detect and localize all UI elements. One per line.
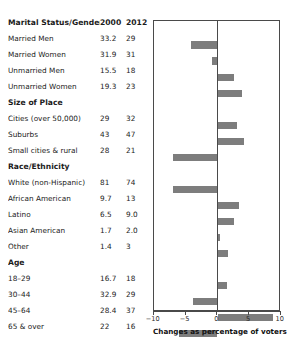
- row-value-2000: 43: [100, 130, 126, 139]
- axis-tick: [185, 311, 186, 315]
- bar: [173, 154, 217, 161]
- axis-tick-label: 0: [214, 315, 218, 323]
- bar-row: [154, 53, 279, 69]
- column-header: Marital Status/Gender20002012: [8, 14, 150, 30]
- row-value-2000: 1.4: [100, 242, 126, 251]
- axis-tick-label: 5: [246, 315, 250, 323]
- row-label: Age: [8, 258, 100, 267]
- chart-figure: Marital Status/Gender20002012Married Men…: [0, 0, 296, 348]
- section-header: Age: [8, 255, 150, 271]
- row-label: Suburbs: [8, 130, 100, 139]
- bar: [191, 41, 218, 48]
- table-row: Unmarried Men15.518: [8, 62, 150, 78]
- row-value-2000: 19.3: [100, 82, 126, 91]
- axis-tick: [216, 311, 217, 315]
- bar: [173, 186, 217, 193]
- row-label: African American: [8, 194, 100, 203]
- row-label: White (non-Hispanic): [8, 178, 100, 187]
- bar-row: [154, 149, 279, 165]
- table-row: 30–4432.929: [8, 287, 150, 303]
- row-value-2000: 9.7: [100, 194, 126, 203]
- row-label: Unmarried Women: [8, 82, 100, 91]
- bar: [218, 122, 237, 129]
- row-label: 30–44: [8, 290, 100, 299]
- row-value-2012: 2.0: [126, 226, 150, 235]
- axis-tick-label: −10: [146, 315, 160, 323]
- bar-row: [154, 101, 279, 117]
- axis-tick: [248, 311, 249, 315]
- bar: [218, 74, 234, 81]
- row-value-2012: 18: [126, 66, 150, 75]
- row-value-2012: 2012: [126, 18, 150, 27]
- bar-row: [154, 230, 279, 246]
- axis-tick-label: −5: [180, 315, 190, 323]
- row-label: Size of Place: [8, 98, 100, 107]
- bar: [218, 234, 220, 241]
- row-value-2012: 31: [126, 50, 150, 59]
- table-row: 18–2916.718: [8, 271, 150, 287]
- section-header: Size of Place: [8, 94, 150, 110]
- axis-tick: [153, 311, 154, 315]
- section-header: Race/Ethnicity: [8, 158, 150, 174]
- row-value-2012: 29: [126, 290, 150, 299]
- row-value-2000: 28.4: [100, 306, 126, 315]
- row-label: Marital Status/Gender: [8, 18, 100, 27]
- row-value-2012: 18: [126, 274, 150, 283]
- row-value-2000: 28: [100, 146, 126, 155]
- table-row: Married Women31.931: [8, 46, 150, 62]
- bar-row: [154, 21, 279, 37]
- row-label: Unmarried Men: [8, 66, 100, 75]
- row-value-2012: 47: [126, 130, 150, 139]
- row-value-2012: 32: [126, 114, 150, 123]
- bar: [218, 90, 241, 97]
- row-label: Married Men: [8, 34, 100, 43]
- axis-tick: [280, 311, 281, 315]
- bar-row: [154, 198, 279, 214]
- bar-row: [154, 278, 279, 294]
- row-label: 65 & over: [8, 322, 100, 331]
- row-value-2012: 37: [126, 306, 150, 315]
- table-row: Suburbs4347: [8, 126, 150, 142]
- bar-row: [154, 117, 279, 133]
- bar: [212, 57, 218, 64]
- bar-row: [154, 85, 279, 101]
- bar-row: [154, 294, 279, 310]
- row-value-2000: 29: [100, 114, 126, 123]
- table-row: Small cities & rural2821: [8, 142, 150, 158]
- row-value-2000: 81: [100, 178, 126, 187]
- row-label: Race/Ethnicity: [8, 162, 100, 171]
- bar-row: [154, 214, 279, 230]
- table-row: Asian American1.72.0: [8, 223, 150, 239]
- bar-row: [154, 69, 279, 85]
- row-value-2012: 29: [126, 34, 150, 43]
- row-label: Other: [8, 242, 100, 251]
- axis-tick-label: 10: [276, 315, 284, 323]
- bar: [193, 298, 218, 305]
- row-value-2000: 33.2: [100, 34, 126, 43]
- row-value-2012: 16: [126, 322, 150, 331]
- bar-row: [154, 262, 279, 278]
- bar: [218, 218, 234, 225]
- row-label: Cities (over 50,000): [8, 114, 100, 123]
- row-value-2000: 6.5: [100, 210, 126, 219]
- row-value-2012: 21: [126, 146, 150, 155]
- bar-row: [154, 181, 279, 197]
- bar: [218, 250, 228, 257]
- x-axis-caption: Changes as percentage of voters: [153, 327, 280, 336]
- bars-container: [154, 21, 279, 342]
- row-value-2000: 16.7: [100, 274, 126, 283]
- table-row: African American9.713: [8, 191, 150, 207]
- row-label: Married Women: [8, 50, 100, 59]
- row-value-2000: 22: [100, 322, 126, 331]
- row-value-2012: 13: [126, 194, 150, 203]
- table-row: White (non-Hispanic)8174: [8, 174, 150, 190]
- bar: [218, 138, 243, 145]
- bar-row: [154, 165, 279, 181]
- data-table: Marital Status/Gender20002012Married Men…: [8, 14, 150, 335]
- bar: [218, 282, 226, 289]
- row-value-2012: 23: [126, 82, 150, 91]
- table-row: Married Men33.229: [8, 30, 150, 46]
- table-row: Latino6.59.0: [8, 207, 150, 223]
- bar-row: [154, 246, 279, 262]
- row-value-2012: 3: [126, 242, 150, 251]
